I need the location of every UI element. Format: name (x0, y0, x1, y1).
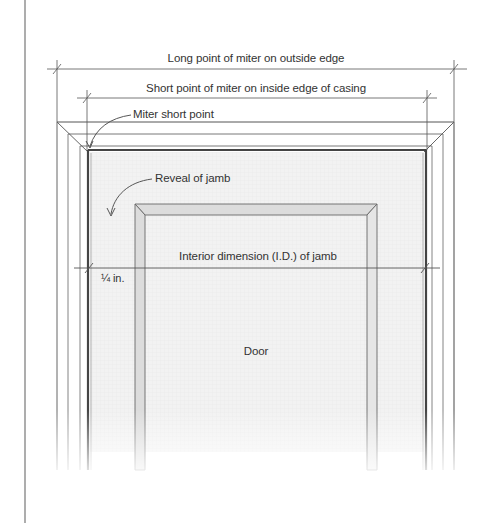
dimension-short-point (77, 90, 437, 150)
label-interior-dimension: Interior dimension (I.D.) of jamb (179, 250, 337, 262)
casing-head (57, 122, 454, 152)
label-short-point: Short point of miter on inside edge of c… (146, 82, 366, 94)
label-quarter-inch: ¼ in. (101, 272, 124, 284)
label-long-point: Long point of miter on outside edge (168, 52, 345, 64)
label-miter-short-point: Miter short point (133, 108, 214, 120)
label-door: Door (244, 345, 269, 357)
casing-diagram: Long point of miter on outside edge Shor… (0, 0, 486, 523)
leader-miter-short-point (86, 115, 131, 148)
label-reveal: Reveal of jamb (155, 172, 230, 184)
bottom-fade (28, 410, 486, 523)
